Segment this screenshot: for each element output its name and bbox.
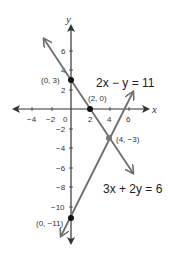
y-tick-label: −8	[56, 183, 66, 192]
x-tick-label: 0	[63, 115, 68, 124]
equation-label-2x-minus-y: 2x − y = 11	[96, 76, 155, 90]
y-tick-label: −6	[56, 164, 66, 173]
point-0-neg11	[68, 215, 74, 221]
point-label: (2, 0)	[88, 94, 107, 103]
y-tick-label: −2	[56, 125, 66, 134]
x-tick-label: 6	[126, 115, 131, 124]
x-tick-label: 2	[88, 115, 93, 124]
point-4-neg3	[106, 135, 112, 141]
x-axis	[14, 107, 148, 111]
point-2-0	[87, 106, 93, 112]
point-label: (0, −11)	[36, 219, 64, 228]
x-axis-label: x	[151, 103, 157, 115]
y-tick-label: −4	[56, 144, 66, 153]
y-tick-label: −10	[51, 203, 65, 212]
equation-label-3x-plus-2y: 3x + 2y = 6	[103, 182, 163, 196]
x-tick-label: −4	[27, 115, 37, 124]
x-tick-label: 4	[107, 115, 112, 124]
graph: x −4 −2 0 2 4 6 y 6 4 2 −2 −4 −6 −8 −10 …	[0, 0, 173, 253]
point-0-3	[68, 77, 74, 83]
y-axis	[69, 26, 73, 243]
line-3x-plus-2y-eq-6	[44, 39, 71, 80]
point-label: (4, −3)	[116, 135, 140, 144]
point-label: (0, 3)	[41, 76, 60, 85]
y-axis-label: y	[65, 13, 71, 25]
x-tick-label: −2	[46, 115, 56, 124]
y-tick-label: 6	[61, 47, 66, 56]
y-tick-label: 2	[61, 86, 66, 95]
